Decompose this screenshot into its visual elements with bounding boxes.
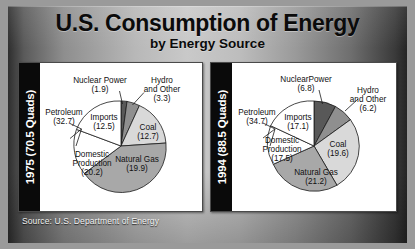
- label-petroleum-value-1975: (32.7): [53, 117, 75, 126]
- page-subtitle: by Energy Source: [8, 36, 407, 51]
- year-strip-1975: 1975 (70.5 Quads): [19, 63, 40, 211]
- label-domestic-1975: Domestic: [75, 150, 109, 159]
- label-coal-1975: Coal: [140, 123, 157, 132]
- year-label-1975: 1975 (70.5 Quads): [24, 90, 36, 184]
- label-hydro-line2-1994: and Other: [350, 95, 387, 104]
- label-hydro-value-1975: (3.3): [154, 94, 171, 103]
- label-nuclear-1994: NuclearPower: [280, 75, 332, 84]
- label-coal-value-1994: (19.6): [327, 149, 349, 158]
- label-imports-1975: Imports: [90, 113, 117, 122]
- label-domestic-line2-1975: Production: [72, 159, 112, 168]
- label-nuclear-value-1975: (1.9): [92, 85, 109, 94]
- page-title: U.S. Consumption of Energy: [8, 6, 407, 36]
- label-natural-gas-value-1994: (21.2): [305, 177, 327, 186]
- label-domestic-value-1994: (17.5): [271, 154, 293, 163]
- label-nuclear-value-1994: (6.8): [298, 84, 315, 93]
- label-coal-1994: Coal: [330, 140, 347, 149]
- label-domestic-1994: Domestic: [265, 136, 299, 145]
- label-petroleum-1994: Petroleum: [238, 108, 275, 117]
- infographic-root: U.S. Consumption of Energy by Energy Sou…: [0, 0, 415, 249]
- year-strip-1994: 1994 (88.5 Quads): [211, 63, 232, 211]
- label-hydro-line2-1975: and Other: [144, 85, 181, 94]
- label-domestic-line2-1994: Production: [262, 145, 302, 154]
- label-hydro-1975: Hydro: [151, 76, 173, 85]
- label-domestic-value-1975: (20.2): [81, 168, 103, 177]
- label-petroleum-1975: Petroleum: [45, 108, 82, 117]
- source-note: Source: U.S. Department of Energy: [22, 216, 159, 226]
- pie-chart-1994: NuclearPower (6.8) Hydro and Other (6.2)…: [232, 63, 396, 211]
- pie-chart-1975: Nuclear Power (1.9) Hydro and Other (3.3…: [40, 63, 202, 211]
- label-natural-gas-value-1975: (19.9): [126, 164, 148, 173]
- label-natural-gas-1975: Natural Gas: [115, 155, 159, 164]
- chart-title-block: U.S. Consumption of Energy by Energy Sou…: [8, 6, 407, 51]
- label-imports-value-1975: (12.5): [93, 122, 115, 131]
- label-petroleum-value-1994: (34.7): [246, 117, 268, 126]
- panel-1975: 1975 (70.5 Quads): [18, 62, 203, 212]
- year-label-1994: 1994 (88.5 Quads): [216, 90, 228, 184]
- pie-slices-1975: [74, 101, 166, 193]
- label-coal-value-1975: (12.7): [137, 132, 159, 141]
- label-natural-gas-1994: Natural Gas: [294, 168, 338, 177]
- label-imports-value-1994: (17.1): [287, 122, 309, 131]
- leader-hydro-1975: [133, 93, 145, 106]
- panel-1994: 1994 (88.5 Quads): [210, 62, 397, 212]
- label-imports-1994: Imports: [284, 113, 311, 122]
- label-nuclear-1975: Nuclear Power: [73, 76, 127, 85]
- label-hydro-1994: Hydro: [357, 86, 379, 95]
- label-hydro-value-1994: (6.2): [360, 104, 377, 113]
